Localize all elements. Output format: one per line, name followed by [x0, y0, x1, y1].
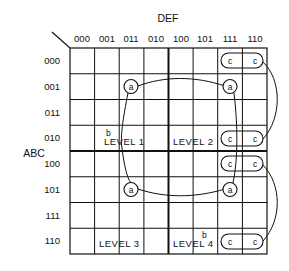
a-marker: a	[228, 185, 233, 195]
level-1-label: LEVEL 1	[104, 136, 145, 147]
level-4-label: LEVEL 4	[173, 238, 214, 249]
column-header: 101	[197, 33, 213, 44]
column-headers: 000 001 011 010 100 101 111 110	[74, 33, 263, 44]
corner-diagonal	[52, 32, 70, 48]
column-header: 001	[99, 33, 115, 44]
column-header: 010	[148, 33, 164, 44]
row-variable-label: ABC	[23, 147, 45, 159]
column-header: 011	[123, 33, 138, 44]
column-header: 111	[223, 33, 237, 44]
a-marker: a	[129, 185, 134, 195]
row-header: 000	[44, 55, 60, 66]
row-header: 111	[46, 210, 60, 221]
row-header: 100	[44, 158, 60, 169]
row-headers: 000 001 011 010 100 101 111 110	[44, 55, 60, 246]
column-variable-label: DEF	[158, 12, 179, 24]
column-header: 000	[74, 33, 90, 44]
row-header: 010	[44, 132, 60, 143]
row-header: 110	[45, 235, 60, 246]
a-marker: a	[129, 82, 134, 92]
column-header: 110	[247, 33, 262, 44]
row-header: 011	[45, 107, 60, 118]
level-2-label: LEVEL 2	[173, 136, 214, 147]
row-header: 001	[44, 81, 60, 92]
a-marker: a	[228, 82, 233, 92]
column-header: 100	[173, 33, 189, 44]
row-header: 101	[44, 184, 60, 195]
karnaugh-map: DEF ABC 000 001 011 010 100 101 111 110 …	[0, 0, 289, 271]
level-3-label: LEVEL 3	[99, 238, 140, 249]
